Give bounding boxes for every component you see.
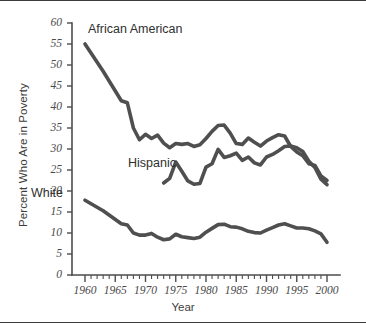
series-line-white — [85, 200, 327, 242]
poverty-rate-chart-figure: 051015202530354045505560 196019651970197… — [0, 0, 366, 323]
y-tick-label: 5 — [36, 248, 62, 260]
tick-marks-group — [67, 23, 327, 282]
series-label-white: White — [31, 187, 63, 200]
y-tick-label: 55 — [36, 38, 62, 50]
y-tick-label: 50 — [36, 59, 62, 71]
y-tick-label: 45 — [36, 80, 62, 92]
x-axis-title: Year — [0, 301, 366, 313]
y-tick-label: 0 — [36, 269, 62, 281]
y-tick-label: 30 — [36, 143, 62, 155]
series-label-african-american: African American — [88, 23, 182, 36]
y-tick-label: 15 — [36, 206, 62, 218]
y-axis-title: Percent Who Are in Poverty — [17, 60, 29, 250]
y-tick-label: 40 — [36, 101, 62, 113]
series-line-hispanic — [164, 146, 327, 185]
y-tick-label: 25 — [36, 164, 62, 176]
y-tick-label: 60 — [36, 17, 62, 29]
y-tick-label: 10 — [36, 227, 62, 239]
x-tick-label: 2000 — [307, 285, 347, 297]
series-line-african-american — [85, 44, 327, 181]
data-series-group — [85, 44, 327, 242]
series-label-hispanic: Hispanic — [128, 157, 176, 170]
y-tick-label: 35 — [36, 122, 62, 134]
